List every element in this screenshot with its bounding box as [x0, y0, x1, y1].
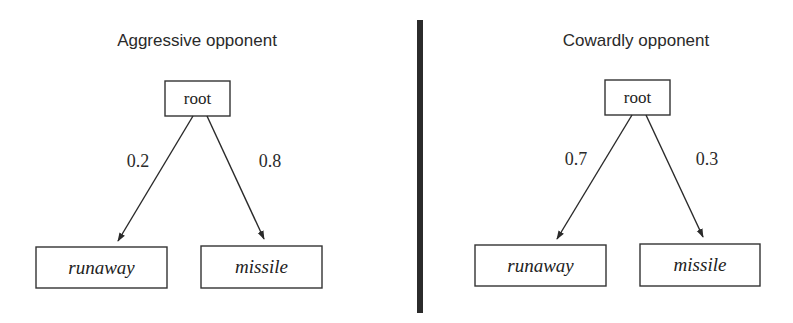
root-node: root [165, 81, 230, 116]
panel-aggressive: Aggressive opponent root 0.2 0.8 runaway… [36, 31, 322, 288]
root-label: root [184, 89, 212, 108]
edge-probability-runaway: 0.2 [127, 151, 150, 171]
edge-to-runaway [557, 115, 632, 239]
missile-label: missile [235, 256, 288, 277]
missile-label: missile [674, 254, 727, 275]
leaf-node-runaway: runaway [36, 247, 167, 288]
runaway-label: runaway [507, 255, 574, 276]
edge-to-missile [207, 116, 264, 239]
panel-title: Aggressive opponent [117, 31, 277, 50]
runaway-label: runaway [68, 257, 135, 278]
diagram-canvas: Aggressive opponent root 0.2 0.8 runaway… [0, 0, 793, 323]
panel-title: Cowardly opponent [563, 31, 710, 50]
edge-probability-runaway: 0.7 [565, 149, 588, 169]
leaf-node-runaway: runaway [475, 245, 606, 286]
edge-probability-missile: 0.3 [696, 149, 719, 169]
root-label: root [624, 88, 652, 107]
panel-cowardly: Cowardly opponent root 0.7 0.3 runaway m… [475, 31, 760, 286]
edge-probability-missile: 0.8 [259, 151, 282, 171]
leaf-node-missile: missile [640, 244, 760, 286]
edge-to-missile [646, 115, 703, 237]
root-node: root [605, 80, 670, 115]
panel-divider [417, 20, 423, 313]
edge-to-runaway [118, 116, 193, 241]
leaf-node-missile: missile [201, 246, 322, 288]
